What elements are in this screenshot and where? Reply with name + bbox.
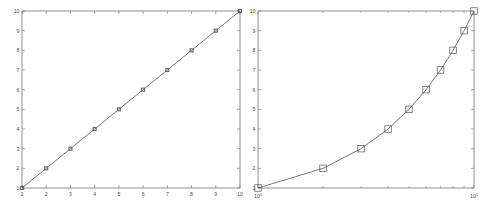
svg-text:101: 101 bbox=[470, 193, 478, 199]
svg-text:6: 6 bbox=[17, 87, 20, 93]
linear-x-tick-labels: 12345678910 bbox=[21, 191, 243, 197]
svg-text:6: 6 bbox=[253, 87, 256, 93]
semilogx-y-ticks bbox=[258, 11, 474, 188]
svg-text:4: 4 bbox=[17, 126, 20, 132]
svg-text:6: 6 bbox=[142, 191, 145, 197]
semilogx-data-line bbox=[258, 11, 474, 188]
svg-text:3: 3 bbox=[253, 146, 256, 152]
svg-text:8: 8 bbox=[190, 191, 193, 197]
svg-text:8: 8 bbox=[17, 47, 20, 53]
semilogx-plot-svg: 100101 12345678910 bbox=[246, 0, 492, 204]
svg-text:2: 2 bbox=[17, 165, 20, 171]
linear-plot-svg: 12345678910 12345678910 bbox=[0, 0, 246, 204]
svg-text:9: 9 bbox=[253, 28, 256, 34]
svg-text:5: 5 bbox=[117, 191, 120, 197]
semilogx-x-ticks bbox=[258, 11, 474, 188]
svg-text:9: 9 bbox=[17, 28, 20, 34]
figure-canvas: 12345678910 12345678910 100101 123456789… bbox=[0, 0, 492, 204]
subplot-linear: 12345678910 12345678910 bbox=[0, 0, 246, 204]
svg-text:1: 1 bbox=[21, 191, 24, 197]
semilogx-axes-frame bbox=[258, 11, 474, 188]
subplot-semilogx: 100101 12345678910 bbox=[246, 0, 492, 204]
svg-text:5: 5 bbox=[253, 106, 256, 112]
svg-text:8: 8 bbox=[253, 47, 256, 53]
svg-text:4: 4 bbox=[253, 126, 256, 132]
svg-text:10: 10 bbox=[14, 8, 20, 14]
svg-text:3: 3 bbox=[17, 146, 20, 152]
svg-text:100: 100 bbox=[254, 193, 262, 199]
svg-text:10: 10 bbox=[250, 8, 256, 14]
svg-text:1: 1 bbox=[253, 185, 256, 191]
semilogx-x-tick-labels: 100101 bbox=[254, 193, 478, 199]
svg-text:1: 1 bbox=[17, 185, 20, 191]
semilogx-data-markers bbox=[255, 8, 478, 192]
svg-text:9: 9 bbox=[214, 191, 217, 197]
svg-text:4: 4 bbox=[93, 191, 96, 197]
svg-text:5: 5 bbox=[17, 106, 20, 112]
svg-text:7: 7 bbox=[253, 67, 256, 73]
linear-y-tick-labels: 12345678910 bbox=[14, 8, 20, 191]
svg-text:3: 3 bbox=[69, 191, 72, 197]
svg-text:7: 7 bbox=[166, 191, 169, 197]
svg-text:10: 10 bbox=[237, 191, 243, 197]
linear-data-line bbox=[22, 11, 240, 188]
svg-text:2: 2 bbox=[45, 191, 48, 197]
svg-text:7: 7 bbox=[17, 67, 20, 73]
semilogx-y-tick-labels: 12345678910 bbox=[250, 8, 256, 191]
svg-text:2: 2 bbox=[253, 165, 256, 171]
